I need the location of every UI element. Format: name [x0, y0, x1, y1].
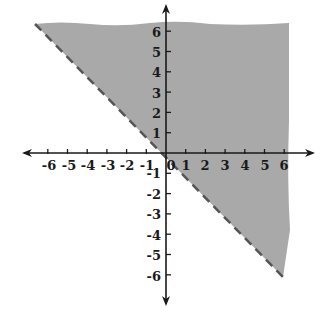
y-label-5: 5 [152, 45, 161, 60]
x-label-neg6: -6 [42, 158, 56, 173]
y-label-6: 6 [152, 25, 161, 40]
x-label-neg2: -2 [120, 158, 134, 173]
y-label-2: 2 [152, 106, 161, 121]
x-label-6: 6 [279, 158, 288, 173]
x-label-5: 5 [260, 158, 269, 173]
x-label-1: 1 [181, 158, 190, 173]
x-label-0: 0 [166, 158, 175, 173]
y-label-1: 1 [152, 126, 161, 141]
x-label-neg5: -5 [62, 158, 76, 173]
x-label-3: 3 [220, 158, 229, 173]
y-label-neg5: -5 [147, 248, 161, 263]
y-label-neg6: -6 [147, 269, 161, 284]
y-label-neg3: -3 [147, 207, 161, 222]
x-label-2: 2 [200, 158, 209, 173]
y-label-3: 3 [152, 86, 161, 101]
y-label-neg2: -2 [147, 187, 161, 202]
y-label-4: 4 [152, 65, 161, 80]
x-label-4: 4 [240, 158, 249, 173]
shaded-region [35, 22, 290, 277]
inequality-graph: -6 -5 -4 -3 -2 -1 0 1 2 3 4 5 6 1 2 3 4 … [0, 0, 322, 315]
x-label-neg3: -3 [101, 158, 115, 173]
x-label-neg4: -4 [81, 158, 95, 173]
y-label-neg1: -1 [147, 166, 161, 181]
y-label-neg4: -4 [147, 228, 161, 243]
